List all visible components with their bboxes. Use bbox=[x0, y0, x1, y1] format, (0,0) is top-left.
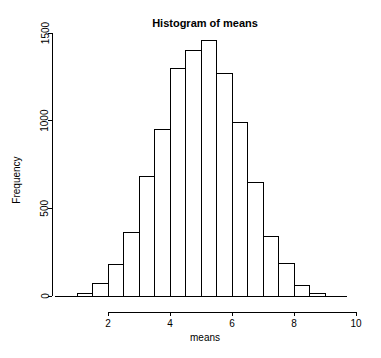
histogram-bar bbox=[170, 68, 186, 296]
y-axis-tick-label: 1000 bbox=[40, 109, 51, 132]
histogram-bar bbox=[217, 73, 233, 296]
histogram-bar bbox=[263, 236, 279, 296]
histogram-bar bbox=[232, 122, 248, 296]
histogram-bar bbox=[294, 285, 310, 296]
x-axis-tick-label: 10 bbox=[350, 318, 362, 329]
y-axis-tick-label: 1500 bbox=[40, 21, 51, 44]
histogram-bar bbox=[248, 182, 264, 296]
histogram-bar bbox=[139, 177, 155, 296]
x-axis-tick-label: 2 bbox=[105, 318, 111, 329]
chart-title: Histogram of means bbox=[152, 17, 258, 29]
histogram-bar bbox=[93, 284, 109, 296]
histogram-chart: Histogram of means 050010001500 246810 m… bbox=[0, 0, 381, 358]
histogram-bar bbox=[279, 264, 295, 296]
y-axis-tick-label: 500 bbox=[40, 200, 51, 217]
x-axis-title: means bbox=[190, 332, 220, 343]
histogram-plot-panel: Histogram of means 050010001500 246810 m… bbox=[0, 0, 381, 358]
histogram-bar bbox=[186, 51, 202, 296]
x-axis-tick-label: 8 bbox=[291, 318, 297, 329]
y-axis-tick-label: 0 bbox=[40, 293, 51, 299]
histogram-bar bbox=[124, 233, 140, 296]
y-axis-title: Frequency bbox=[11, 156, 22, 203]
x-axis-tick-label: 6 bbox=[229, 318, 235, 329]
x-axis-tick-label: 4 bbox=[167, 318, 173, 329]
histogram-bar bbox=[108, 264, 124, 296]
histogram-bar bbox=[155, 129, 171, 296]
histogram-bar bbox=[201, 41, 217, 296]
